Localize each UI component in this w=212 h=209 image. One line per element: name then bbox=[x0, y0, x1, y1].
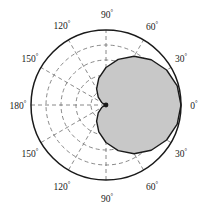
label-60-up: 60° bbox=[146, 20, 159, 32]
label-60-dn: 60° bbox=[146, 180, 159, 192]
pole-dot bbox=[104, 103, 109, 108]
cardioid-curve bbox=[97, 56, 181, 153]
cardioid-shaded-region bbox=[97, 56, 181, 153]
polar-plot-figure: 0°30°60°90°120°150°180°150°120°90°60°30° bbox=[0, 0, 212, 209]
polar-pole-marker bbox=[104, 103, 109, 108]
label-180: 180° bbox=[10, 99, 27, 111]
label-120-dn: 120° bbox=[54, 180, 71, 192]
label-90-dn: 90° bbox=[101, 192, 114, 204]
label-150-up: 150° bbox=[22, 52, 39, 64]
label-90-up: 90° bbox=[101, 8, 114, 20]
label-0: 0° bbox=[190, 99, 198, 111]
label-30-dn: 30° bbox=[175, 147, 188, 159]
label-120-up: 120° bbox=[54, 19, 71, 31]
polar-plot-canvas: 0°30°60°90°120°150°180°150°120°90°60°30° bbox=[0, 0, 212, 209]
label-30-up: 30° bbox=[175, 52, 188, 64]
label-150-dn: 150° bbox=[22, 147, 39, 159]
